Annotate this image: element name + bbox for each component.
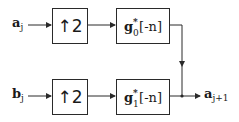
filter-g1-superscript: * xyxy=(133,88,138,98)
upsample-label-top: ↑2 xyxy=(57,16,82,36)
input-a-subscript: j xyxy=(20,22,23,32)
filter-g1-arg: [-n] xyxy=(139,90,162,105)
output-subscript: j+1 xyxy=(212,93,228,103)
filter-g0-base: g xyxy=(124,19,133,34)
filter-block-g1: g*1[-n] xyxy=(116,79,170,115)
sum-node-dot xyxy=(180,94,183,97)
input-b-base: b xyxy=(12,86,21,101)
input-label-b: bj xyxy=(12,86,24,103)
output-label: aj+1 xyxy=(204,86,229,103)
upsample-block-top: ↑2 xyxy=(52,8,88,44)
input-label-a: aj xyxy=(12,15,23,32)
filter-g1-subscript: 1 xyxy=(133,99,139,109)
filter-block-g0: g*0[-n] xyxy=(116,8,170,44)
filter-g0-subscript: 0 xyxy=(133,28,139,38)
filter-g0-arg: [-n] xyxy=(139,19,162,34)
line-g0-to-sum xyxy=(169,25,182,66)
filter-g1-base: g xyxy=(124,90,133,105)
upsample-block-bottom: ↑2 xyxy=(52,79,88,115)
filter-g0-superscript: * xyxy=(133,17,138,27)
input-b-subscript: j xyxy=(21,93,24,103)
upsample-label-bottom: ↑2 xyxy=(57,87,82,107)
